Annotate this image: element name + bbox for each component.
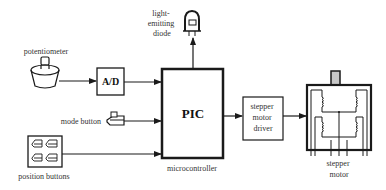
motor-shaft [331, 71, 340, 85]
position-buttons-label: position buttons [18, 172, 69, 181]
led-icon [183, 11, 201, 36]
block-diagram: light- emitting diode potentiometer A/D … [0, 0, 386, 190]
driver-label: stepper motor driver [250, 102, 275, 133]
driver-block: stepper motor driver [243, 97, 283, 140]
adc-label: A/D [102, 76, 119, 87]
pic-label: PIC [182, 106, 204, 121]
position-buttons-icon [28, 136, 62, 167]
coil-icon [322, 97, 358, 132]
adc-block: A/D [97, 68, 124, 95]
potentiometer-label: potentiometer [24, 47, 69, 56]
led-label: light- emitting diode [148, 9, 177, 38]
potentiometer-icon [31, 57, 59, 88]
stepper-motor-icon [307, 71, 371, 156]
mode-button-icon [107, 112, 124, 125]
pic-caption: microcontroller [167, 164, 217, 173]
pic-block: PIC [162, 69, 223, 158]
motor-label: stepper motor [326, 159, 351, 179]
mode-button-label: mode button [61, 117, 101, 126]
